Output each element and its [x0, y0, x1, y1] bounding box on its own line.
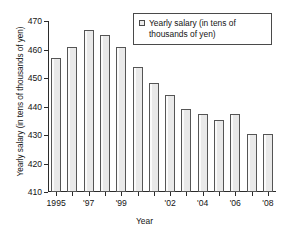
x-axis-tick [219, 192, 220, 196]
x-axis-tick [121, 192, 122, 196]
x-axis-tick-label: '04 [197, 198, 208, 208]
bar [100, 35, 110, 192]
plot-area: 410420430440450460470 1995'97'99'02'04'0… [48, 21, 276, 192]
x-axis-line [48, 191, 276, 192]
x-axis-title: Year [0, 216, 289, 226]
y-axis-title: Yearly salary (in tens of thousands of y… [16, 12, 25, 192]
y-axis-tick [44, 135, 48, 136]
chart-legend: Yearly salary (in tens of thousands of y… [133, 13, 272, 45]
bar [133, 67, 143, 192]
bar [67, 47, 77, 192]
x-axis-tick [56, 192, 57, 196]
x-axis-tick [89, 192, 90, 196]
bar [116, 47, 126, 192]
x-axis-tick [138, 192, 139, 196]
bar [230, 114, 240, 192]
x-axis-tick-label: '02 [165, 198, 176, 208]
x-axis-tick [268, 192, 269, 196]
y-axis-tick [44, 78, 48, 79]
y-axis-tick [44, 164, 48, 165]
bar [181, 109, 191, 192]
y-axis-tick-label: 430 [28, 130, 42, 140]
bar [247, 134, 257, 192]
x-axis-tick [235, 192, 236, 196]
x-axis-tick [170, 192, 171, 196]
x-axis-tick-label: '08 [262, 198, 273, 208]
x-axis-tick [203, 192, 204, 196]
y-axis-tick [44, 107, 48, 108]
y-axis-tick-label: 410 [28, 187, 42, 197]
bar [149, 83, 159, 192]
y-axis-line [48, 21, 49, 192]
bar [263, 134, 273, 192]
y-axis-tick-label: 420 [28, 159, 42, 169]
y-axis-tick [44, 50, 48, 51]
y-axis-tick-label: 440 [28, 102, 42, 112]
bar-chart-figure: Yearly salary (in tens of thousands of y… [0, 0, 289, 239]
bar [165, 95, 175, 192]
legend-label: Yearly salary (in tens of thousands of y… [149, 18, 265, 39]
y-axis-tick-label: 460 [28, 45, 42, 55]
x-axis-tick [252, 192, 253, 196]
x-axis-tick-label: '06 [230, 198, 241, 208]
bar [198, 114, 208, 192]
x-axis-tick-label: 1995 [47, 198, 66, 208]
x-axis-tick [72, 192, 73, 196]
bar [84, 30, 94, 192]
bar [214, 120, 224, 192]
x-axis-tick [186, 192, 187, 196]
y-axis-tick-label: 470 [28, 16, 42, 26]
bar [51, 58, 61, 192]
x-axis-tick [105, 192, 106, 196]
legend-swatch-icon [139, 20, 145, 26]
x-axis-tick [154, 192, 155, 196]
x-axis-tick-label: '97 [83, 198, 94, 208]
x-axis-tick-label: '99 [116, 198, 127, 208]
y-axis-tick-label: 450 [28, 73, 42, 83]
y-axis-tick [44, 21, 48, 22]
y-axis-tick [44, 192, 48, 193]
